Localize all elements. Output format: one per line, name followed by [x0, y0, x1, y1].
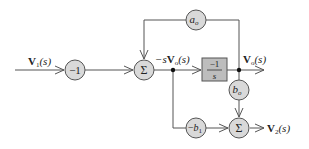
sum2-label: Σ — [236, 121, 243, 135]
node-feedback-ao: ao — [186, 10, 206, 30]
integrator-denominator: s — [213, 71, 217, 81]
input-signal-label: V1(s) — [28, 55, 51, 69]
b1-sub: 1 — [199, 127, 203, 135]
node-sum1: Σ — [134, 60, 154, 80]
internal-signal-label: −sVo(s) — [155, 53, 190, 67]
integrator-numerator: −1 — [210, 59, 220, 69]
node-gain-neg1: −1 — [65, 60, 85, 80]
gain-neg1-label: −1 — [69, 64, 81, 76]
node-gain-neg-b1: −b1 — [186, 118, 206, 138]
bo-sub: o — [238, 89, 242, 97]
ao-sub: o — [195, 19, 199, 27]
branch-to-b1-path — [173, 70, 186, 128]
integrator-block: −1 s — [202, 58, 227, 81]
output-v2-label: V2(s) — [267, 122, 290, 136]
junction-dot-internal — [171, 68, 175, 72]
output-vo-label: Vo(s) — [243, 53, 266, 67]
signal-flow-diagram: −1 Σ ao −1 s bo −b1 Σ V1(s) −sVo(s) Vo(s… — [0, 0, 309, 149]
node-gain-bo: bo — [229, 80, 249, 100]
node-sum2: Σ — [229, 118, 249, 138]
junction-dot-output — [237, 68, 241, 72]
sum1-label: Σ — [141, 63, 148, 77]
